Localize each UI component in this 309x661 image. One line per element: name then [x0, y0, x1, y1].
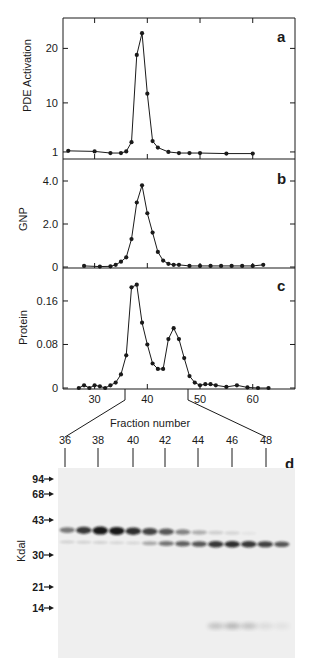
data-point — [145, 342, 149, 346]
data-point — [140, 31, 144, 35]
data-point — [98, 264, 102, 268]
fraction-label: 40 — [127, 434, 139, 446]
y-tick-label: 2.0 — [43, 218, 58, 230]
series-gnp — [82, 183, 265, 268]
data-point — [145, 211, 149, 215]
data-point — [182, 356, 186, 360]
data-point — [114, 380, 118, 384]
data-point — [156, 367, 160, 371]
data-point — [251, 151, 255, 155]
mw-marker-label: 43 — [32, 514, 44, 526]
data-point — [129, 140, 133, 144]
y-axis-label-b: GNP — [17, 207, 29, 231]
figure: 11020 a PDE Activation 02.04.0 b GNP 00.… — [0, 0, 309, 661]
data-point — [93, 383, 97, 387]
data-point — [166, 262, 170, 266]
y-axis-label-c: Protein — [17, 310, 29, 345]
series-pde-activation — [66, 31, 255, 156]
data-point — [240, 264, 244, 268]
x-axis-label: Fraction number — [110, 417, 190, 429]
y-axis-label-d: Kdal — [15, 540, 27, 562]
fraction-label: 38 — [92, 434, 104, 446]
x-tick-label: 30 — [88, 393, 100, 405]
fraction-label: 36 — [59, 434, 71, 446]
chart-panel-b: 02.04.0 b GNP — [17, 159, 295, 273]
data-point — [66, 149, 70, 153]
data-point — [93, 149, 97, 153]
data-point — [108, 264, 112, 268]
arrow-icon — [49, 492, 54, 497]
data-point — [87, 386, 91, 390]
panel-label-a: a — [277, 28, 286, 45]
data-point — [187, 264, 191, 268]
data-point — [245, 385, 249, 389]
data-point — [266, 386, 270, 390]
data-point — [150, 139, 154, 143]
chart-panel-c: 00.080.16 c Protein 30405060 — [17, 268, 295, 405]
mw-markers: 946843302114 — [32, 473, 54, 614]
data-point — [124, 353, 128, 357]
y-tick-label: 10 — [46, 97, 58, 109]
data-point — [156, 145, 160, 149]
data-point — [77, 386, 81, 390]
data-point — [224, 151, 228, 155]
data-point — [208, 264, 212, 268]
x-tick-label: 40 — [141, 393, 153, 405]
panel-label-b: b — [277, 170, 286, 187]
data-point — [224, 385, 228, 389]
data-point — [203, 382, 207, 386]
mw-marker-label: 14 — [32, 602, 44, 614]
data-point — [135, 283, 139, 287]
fraction-label: 44 — [192, 434, 204, 446]
y-tick-label: 20 — [46, 42, 58, 54]
data-point — [166, 150, 170, 154]
data-point — [172, 263, 176, 267]
data-point — [208, 382, 212, 386]
data-point — [124, 255, 128, 259]
data-point — [82, 383, 86, 387]
data-point — [129, 285, 133, 289]
data-point — [161, 258, 165, 262]
data-point — [251, 264, 255, 268]
data-point — [119, 151, 123, 155]
arrow-icon — [49, 606, 54, 611]
data-point — [135, 53, 139, 57]
data-point — [198, 264, 202, 268]
y-tick-label: 0 — [52, 382, 58, 394]
arrow-icon — [49, 553, 54, 558]
x-tick-label: 60 — [247, 393, 259, 405]
data-point — [230, 264, 234, 268]
data-point — [114, 263, 118, 267]
fraction-label: 48 — [260, 434, 272, 446]
fraction-label: 46 — [226, 434, 238, 446]
data-point — [235, 383, 239, 387]
data-point — [108, 383, 112, 387]
data-point — [161, 367, 165, 371]
data-point — [214, 383, 218, 387]
y-tick-label: 0.08 — [37, 338, 58, 350]
data-point — [198, 151, 202, 155]
arrow-icon — [49, 477, 54, 482]
data-point — [172, 326, 176, 330]
data-point — [187, 374, 191, 378]
data-point — [135, 200, 139, 204]
y-tick-label: 0 — [52, 261, 58, 273]
chart-panel-a: 11020 a PDE Activation — [21, 18, 295, 159]
fraction-label: 42 — [159, 434, 171, 446]
mw-marker-label: 30 — [32, 549, 44, 561]
data-point — [256, 386, 260, 390]
data-point — [145, 92, 149, 96]
data-point — [119, 260, 123, 264]
data-point — [129, 237, 133, 241]
data-point — [193, 380, 197, 384]
mw-marker-label: 68 — [32, 488, 44, 500]
arrow-icon — [49, 518, 54, 523]
y-axis-label-a: PDE Activation — [21, 39, 33, 112]
y-tick-label: 1 — [52, 146, 58, 158]
data-point — [103, 386, 107, 390]
y-tick-label: 4.0 — [43, 175, 58, 187]
data-point — [150, 361, 154, 365]
data-point — [124, 149, 128, 153]
data-point — [261, 263, 265, 267]
data-point — [219, 264, 223, 268]
